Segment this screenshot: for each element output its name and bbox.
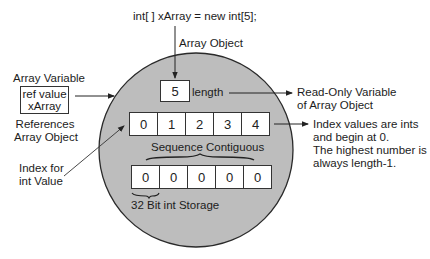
references-caption-line1: References [14,118,76,131]
read-only-note-line1: Read-Only Variable [297,86,397,99]
index-for-label: Index for int Value [19,162,64,188]
index-cell: 2 [185,112,214,136]
sequence-contiguous-label: Sequence Contiguous [151,141,264,154]
references-caption-line2: Array Object [14,131,76,144]
length-value-box: 5 [160,80,190,102]
value-cell: 0 [159,165,188,189]
reference-variable-name: xArray [21,100,68,112]
code-declaration: int[ ] xArray = new int[5]; [133,10,257,23]
index-for-line2: int Value [19,175,64,188]
value-cell: 0 [215,165,244,189]
index-cell: 4 [241,112,270,136]
index-note-line3: The highest number is [313,144,427,157]
array-variable-title: Array Variable [13,72,85,85]
index-for-line1: Index for [19,162,64,175]
index-values-note: Index values are ints and begin at 0. Th… [313,118,427,170]
array-object-label: Array Object [179,37,243,50]
index-cell: 0 [129,112,158,136]
index-row: 0 1 2 3 4 [129,112,270,136]
value-cell: 0 [243,165,272,189]
read-only-note-line2: of Array Object [297,99,397,112]
value-row: 0 0 0 0 0 [131,165,272,189]
reference-value-box: ref value xArray [20,86,69,114]
length-label: length [192,86,223,99]
references-caption: References Array Object [14,118,76,144]
index-cell: 3 [213,112,242,136]
value-cell: 0 [131,165,160,189]
storage-label: 32 Bit int Storage [131,199,219,212]
index-note-line4: always length-1. [313,157,427,170]
index-note-line1: Index values are ints [313,118,427,131]
index-note-line2: and begin at 0. [313,131,427,144]
read-only-note: Read-Only Variable of Array Object [297,86,397,112]
reference-value-label: ref value [21,88,68,100]
index-cell: 1 [157,112,186,136]
value-cell: 0 [187,165,216,189]
